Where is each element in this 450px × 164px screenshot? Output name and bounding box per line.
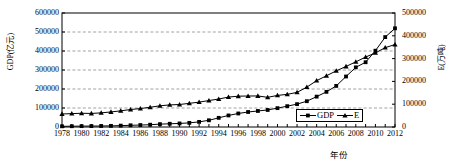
chart-container: GDP(亿元) E(万吨) 年份 01000002000003000004000… xyxy=(0,0,450,164)
chart-legend: GDPE xyxy=(296,109,363,122)
legend-label: GDP xyxy=(317,111,334,120)
legend-item[interactable]: E xyxy=(337,111,359,120)
legend-label: E xyxy=(354,111,359,120)
triangle-marker-icon xyxy=(337,111,353,120)
legend-item[interactable]: GDP xyxy=(300,111,334,120)
square-marker-icon xyxy=(300,111,316,120)
plot-area xyxy=(0,0,450,164)
